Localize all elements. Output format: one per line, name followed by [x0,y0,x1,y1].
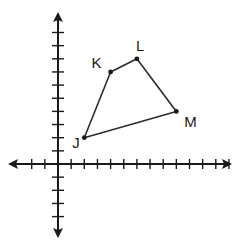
edge-lm [137,59,176,112]
vertex-k [108,70,113,75]
edge-kl [111,59,137,72]
vertex-label-k: K [92,54,102,71]
vertex-j [82,135,87,140]
edge-mj [84,111,176,137]
vertex-m [174,109,179,114]
edge-jk [84,72,110,138]
vertex-label-l: L [136,37,144,54]
quadrilateral-jklm: JKLM [72,37,197,151]
vertex-l [135,56,140,61]
vertex-label-j: J [72,134,80,151]
vertex-label-m: M [184,113,197,130]
coordinate-plane: JKLM [0,0,237,250]
